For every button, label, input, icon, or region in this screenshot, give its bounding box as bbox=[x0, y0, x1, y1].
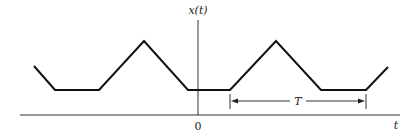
signal-plot: x(t) 0 t T bbox=[0, 0, 414, 138]
arrowhead-right-icon bbox=[358, 99, 365, 104]
origin-label: 0 bbox=[195, 120, 202, 133]
trapezoidal-waveform bbox=[34, 41, 388, 90]
y-axis-label: x(t) bbox=[188, 4, 207, 17]
t-axis-label: t bbox=[394, 119, 399, 132]
period-label: T bbox=[294, 95, 303, 108]
arrowhead-left-icon bbox=[231, 99, 238, 104]
periodic-signal-figure: x(t) 0 t T bbox=[0, 0, 414, 138]
